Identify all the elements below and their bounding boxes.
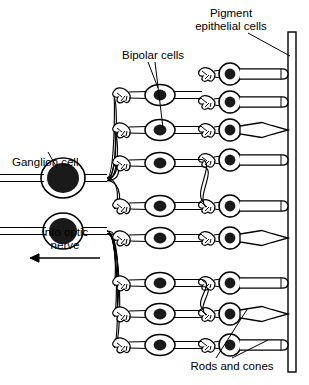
photoreceptor-nucleus [225,201,236,212]
photoreceptor-layer [199,63,288,356]
photoreceptor-nucleus [225,278,236,289]
bipolar-nucleus [154,233,167,244]
pigment-epithelial-layer [288,32,296,372]
pigment-epithelium-bar [288,32,296,372]
bipolar-nucleus [154,309,167,320]
photoreceptor-nucleus [225,233,236,244]
photoreceptor-nucleus [225,97,236,108]
photoreceptor-nucleus [225,125,236,136]
retina-diagram-svg: Pigment epithelial cells Bipolar cells G… [0,0,309,385]
bipolar-nucleus [154,278,167,289]
photoreceptor-nucleus [225,309,236,320]
pigment-epithelial-label-line1: Pigment [210,7,253,19]
pigment-epithelial-label-line2: epithelial cells [195,20,267,32]
bipolar-nucleus [154,158,167,169]
bipolar-nucleus [154,201,167,212]
ganglion-cell-label: Ganglion cell [12,156,78,168]
retina-diagram-figure: Pigment epithelial cells Bipolar cells G… [0,0,309,385]
bipolar-nucleus [154,340,167,351]
bipolar-nucleus [154,90,167,101]
into-optic-nerve-label-line1: Into optic [42,226,89,238]
bipolar-nucleus [154,125,167,136]
photoreceptor-nucleus [225,69,236,80]
bipolar-cells-label: Bipolar cells [122,49,184,61]
into-optic-nerve-label-line2: nerve [51,239,80,251]
rods-and-cones-label: Rods and cones [190,360,273,372]
photoreceptor-nucleus [225,155,236,166]
